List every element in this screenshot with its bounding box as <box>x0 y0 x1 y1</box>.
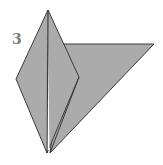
origami-diagram <box>0 0 163 165</box>
step-number-label: 3 <box>12 31 22 47</box>
